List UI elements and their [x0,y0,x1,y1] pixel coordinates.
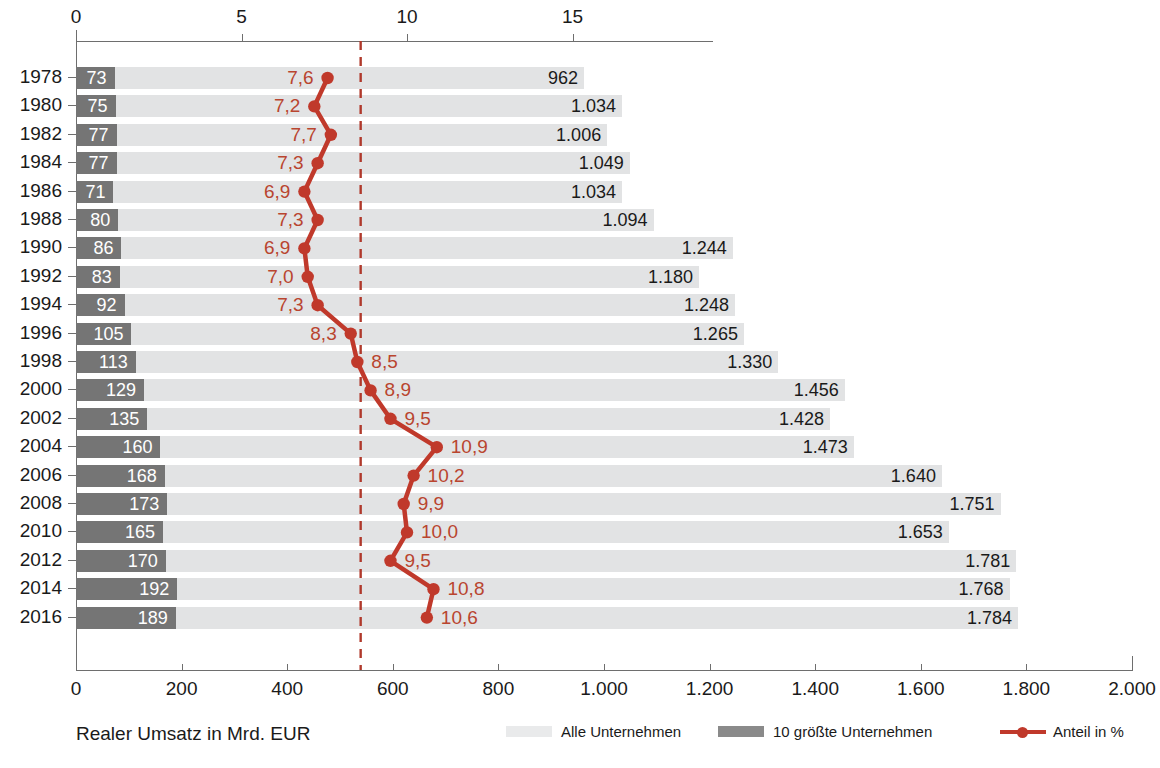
bottom-axis-tick-label: 1.400 [791,678,839,700]
share-point-value: 7,3 [277,294,317,316]
chart-row: 19801.034757,2 [0,92,1160,120]
legend-item-share: Anteil in % [1000,723,1124,740]
bar-top10-companies-value: 189 [138,608,176,629]
top-axis-line [76,41,713,42]
legend-label-all: Alle Unternehmen [561,723,681,740]
year-axis-label: 1988 [0,208,62,230]
year-axis-label: 2008 [0,492,62,514]
bar-all-companies [76,379,845,401]
year-axis-label: 1984 [0,151,62,173]
bar-all-companies-value: 1.653 [898,522,949,543]
bar-all-companies-value: 1.768 [958,579,1009,600]
chart-row: 19961.2651058,3 [0,320,1160,348]
top-axis-tick [242,34,243,42]
share-point-value: 9,5 [390,408,430,430]
legend-item-top10: 10 größte Unternehmen [718,723,932,740]
top-axis-tick-label: 15 [562,6,583,28]
bar-top10-companies-value: 192 [139,579,177,600]
bar-all-companies [76,95,622,117]
chart-container: 051015 1978962737,619801.034757,219821.0… [0,0,1160,768]
chart-row: 20101.65316510,0 [0,518,1160,546]
bar-all-companies [76,521,949,543]
bar-all-companies [76,67,584,89]
share-point-value: 6,9 [264,237,304,259]
bar-all-companies [76,181,622,203]
x-axis-title: Realer Umsatz in Mrd. EUR [76,723,310,745]
share-point-value: 7,3 [277,209,317,231]
legend-swatch-top10-icon [718,726,764,737]
legend-swatch-all-icon [506,726,552,737]
bar-all-companies-value: 1.180 [648,267,699,288]
chart-row: 19861.034716,9 [0,178,1160,206]
bar-all-companies [76,351,778,373]
bottom-axis-tick-label: 1.800 [1003,678,1051,700]
bar-all-companies-value: 1.640 [891,466,942,487]
share-point-value: 8,9 [371,379,411,401]
chart-row: 20001.4561298,9 [0,376,1160,404]
bottom-axis-tick [287,664,288,671]
chart-row: 19821.006777,7 [0,121,1160,149]
share-point-value: 10,9 [437,436,488,458]
bar-all-companies [76,124,607,146]
bar-top10-companies-value: 75 [88,96,116,117]
legend-label-top10: 10 größte Unternehmen [773,723,932,740]
chart-row: 19881.094807,3 [0,206,1160,234]
bottom-axis-tick-label: 600 [377,678,409,700]
bar-top10-companies-value: 135 [109,409,147,430]
year-axis-label: 2002 [0,407,62,429]
bar-all-companies [76,408,830,430]
year-axis-label: 1978 [0,66,62,88]
bar-all-companies [76,294,735,316]
bar-all-companies [76,550,1016,572]
bottom-axis-tick-label: 0 [71,678,82,700]
bar-top10-companies-value: 77 [89,153,117,174]
bar-top10-companies-value: 83 [92,267,120,288]
bar-all-companies [76,578,1010,600]
bar-top10-companies-value: 168 [127,466,165,487]
share-point-value: 7,3 [277,152,317,174]
chart-row: 19921.180837,0 [0,263,1160,291]
share-point-value: 9,5 [390,550,430,572]
bar-all-companies [76,209,654,231]
bottom-axis-tick-label: 2.000 [1108,678,1156,700]
bottom-axis-tick [182,664,183,671]
chart-row: 19901.244866,9 [0,234,1160,262]
year-axis-label: 2010 [0,520,62,542]
chart-row: 19841.049777,3 [0,149,1160,177]
chart-row: 20041.47316010,9 [0,433,1160,461]
year-axis-label: 2012 [0,549,62,571]
bar-all-companies-value: 1.473 [803,437,854,458]
bar-all-companies-value: 1.094 [603,210,654,231]
bottom-axis-tick-label: 1.000 [580,678,628,700]
bar-all-companies-value: 1.049 [579,153,630,174]
bar-all-companies-value: 1.428 [779,409,830,430]
year-axis-label: 1998 [0,350,62,372]
chart-row: 1978962737,6 [0,64,1160,92]
share-point-value: 9,9 [404,493,444,515]
bottom-axis-tick [498,664,499,671]
bar-all-companies-value: 1.330 [727,352,778,373]
chart-row: 20081.7511739,9 [0,490,1160,518]
share-point-value: 8,3 [310,323,350,345]
share-point-value: 7,6 [287,67,327,89]
bar-all-companies [76,237,733,259]
bar-all-companies-value: 1.781 [965,551,1016,572]
bar-top10-companies-value: 165 [125,522,163,543]
bar-top10-companies-value: 173 [129,494,167,515]
bar-all-companies [76,493,1001,515]
year-axis-label: 1990 [0,236,62,258]
bottom-axis-tick [710,664,711,671]
year-axis-label: 2016 [0,606,62,628]
bar-all-companies-value: 1.006 [556,125,607,146]
bottom-axis-tick-label: 1.200 [686,678,734,700]
bar-top10-companies-value: 86 [93,238,121,259]
bar-all-companies [76,152,630,174]
bar-top10-companies-value: 73 [87,68,115,89]
share-point-value: 8,5 [357,351,397,373]
year-axis-label: 2006 [0,464,62,486]
bottom-axis-tick [1132,656,1133,671]
year-axis-label: 2014 [0,577,62,599]
bar-top10-companies-value: 80 [90,210,118,231]
bottom-axis-tick [76,656,77,671]
bar-all-companies [76,607,1018,629]
